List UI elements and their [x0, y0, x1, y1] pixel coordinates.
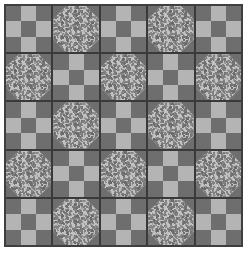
- ninepatch-patch-dark: [196, 133, 211, 148]
- ninepatch-patch-light: [69, 151, 84, 166]
- ninepatch-patch-dark: [6, 6, 21, 21]
- ninepatch-patch-dark: [131, 6, 146, 21]
- ninepatch-patch-dark: [69, 70, 84, 85]
- ninepatch-patch-dark: [131, 133, 146, 148]
- ninepatch-patch-dark: [196, 102, 211, 117]
- ninepatch-patch-dark: [211, 214, 226, 229]
- quilt-block-snowball: [196, 151, 241, 197]
- ninepatch-patch-dark: [36, 6, 51, 21]
- ninepatch-patch-light: [36, 21, 51, 36]
- ninepatch-patch-dark: [84, 85, 99, 100]
- quilt-block-snowball: [53, 199, 98, 245]
- quilt-block-snowball: [196, 54, 241, 100]
- ninepatch-patch-light: [116, 6, 131, 21]
- ninepatch-patch-light: [196, 118, 211, 133]
- quilt-block-snowball: [148, 6, 193, 52]
- ninepatch-patch-light: [226, 21, 241, 36]
- ninepatch-patch-light: [226, 118, 241, 133]
- ninepatch-patch-light: [101, 21, 116, 36]
- ninepatch-patch-dark: [84, 151, 99, 166]
- ninepatch-patch-light: [131, 214, 146, 229]
- quilt-block-ninepatch: [101, 102, 146, 148]
- quilt-block-snowball: [6, 151, 51, 197]
- ninepatch-patch-light: [211, 6, 226, 21]
- quilt-block-ninepatch: [101, 199, 146, 245]
- ninepatch-patch-dark: [6, 230, 21, 245]
- ninepatch-patch-light: [21, 6, 36, 21]
- ninepatch-patch-light: [21, 133, 36, 148]
- ninepatch-patch-light: [163, 181, 178, 196]
- ninepatch-patch-dark: [21, 21, 36, 36]
- ninepatch-patch-dark: [178, 181, 193, 196]
- ninepatch-patch-dark: [226, 133, 241, 148]
- ninepatch-patch-dark: [148, 181, 163, 196]
- ninepatch-patch-dark: [53, 85, 68, 100]
- ninepatch-patch-dark: [178, 54, 193, 69]
- quilt-block-snowball: [101, 151, 146, 197]
- ninepatch-patch-dark: [148, 85, 163, 100]
- snowball-octagon-center: [53, 199, 98, 245]
- quilt-block-ninepatch: [6, 102, 51, 148]
- ninepatch-patch-dark: [226, 6, 241, 21]
- ninepatch-patch-dark: [101, 6, 116, 21]
- ninepatch-patch-dark: [6, 37, 21, 52]
- ninepatch-patch-light: [131, 118, 146, 133]
- ninepatch-patch-dark: [211, 118, 226, 133]
- ninepatch-patch-light: [211, 133, 226, 148]
- snowball-octagon-center: [6, 54, 51, 100]
- quilt-block-ninepatch: [196, 6, 241, 52]
- ninepatch-patch-light: [53, 166, 68, 181]
- ninepatch-patch-light: [101, 118, 116, 133]
- ninepatch-patch-dark: [178, 85, 193, 100]
- quilt-block-ninepatch: [148, 151, 193, 197]
- ninepatch-patch-light: [116, 199, 131, 214]
- ninepatch-patch-dark: [196, 37, 211, 52]
- ninepatch-patch-light: [196, 214, 211, 229]
- ninepatch-patch-dark: [6, 102, 21, 117]
- ninepatch-patch-dark: [21, 214, 36, 229]
- snowball-octagon-center: [148, 6, 193, 52]
- ninepatch-patch-light: [69, 181, 84, 196]
- ninepatch-patch-dark: [116, 118, 131, 133]
- ninepatch-patch-dark: [131, 199, 146, 214]
- quilt-block-ninepatch: [6, 199, 51, 245]
- ninepatch-patch-dark: [101, 199, 116, 214]
- quilt-block-snowball: [53, 6, 98, 52]
- snowball-octagon-center: [148, 199, 193, 245]
- ninepatch-patch-light: [226, 214, 241, 229]
- snowball-octagon-center: [148, 102, 193, 148]
- ninepatch-patch-dark: [36, 37, 51, 52]
- ninepatch-patch-light: [36, 118, 51, 133]
- ninepatch-patch-dark: [131, 230, 146, 245]
- ninepatch-patch-dark: [53, 181, 68, 196]
- quilt-block-snowball: [148, 102, 193, 148]
- snowball-octagon-center: [101, 151, 146, 197]
- quilt-block-snowball: [148, 199, 193, 245]
- ninepatch-patch-dark: [101, 133, 116, 148]
- quilt-block-ninepatch: [196, 199, 241, 245]
- snowball-octagon-center: [196, 151, 241, 197]
- ninepatch-patch-light: [116, 37, 131, 52]
- ninepatch-patch-light: [116, 102, 131, 117]
- ninepatch-patch-dark: [36, 102, 51, 117]
- ninepatch-patch-dark: [226, 230, 241, 245]
- quilt-block-grid: [6, 6, 241, 245]
- ninepatch-patch-light: [148, 70, 163, 85]
- ninepatch-patch-light: [196, 21, 211, 36]
- ninepatch-patch-light: [36, 214, 51, 229]
- ninepatch-patch-dark: [196, 6, 211, 21]
- ninepatch-patch-dark: [226, 37, 241, 52]
- ninepatch-patch-dark: [36, 199, 51, 214]
- ninepatch-patch-dark: [211, 21, 226, 36]
- ninepatch-patch-dark: [36, 230, 51, 245]
- ninepatch-patch-dark: [6, 133, 21, 148]
- ninepatch-patch-light: [53, 70, 68, 85]
- snowball-octagon-center: [196, 54, 241, 100]
- ninepatch-patch-dark: [6, 199, 21, 214]
- ninepatch-patch-dark: [53, 151, 68, 166]
- ninepatch-patch-dark: [101, 37, 116, 52]
- quilt-block-snowball: [53, 102, 98, 148]
- quilt-block-ninepatch: [148, 54, 193, 100]
- ninepatch-patch-dark: [116, 21, 131, 36]
- ninepatch-patch-dark: [53, 54, 68, 69]
